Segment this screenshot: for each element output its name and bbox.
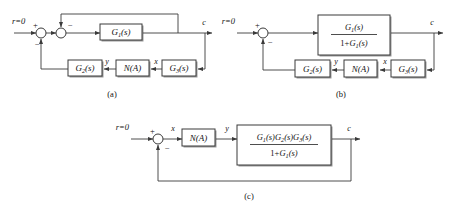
g2-block-label-b: G2(s) [303, 64, 322, 75]
wire-g2-to-sum1 [41, 39, 69, 69]
signal-label-x-a: x [153, 57, 158, 66]
input-label-b: r=0 [222, 16, 236, 26]
diagram-c: N(A) G1(s)G2(s)G3(s) 1+G1(s) + − r=0 x y… [116, 122, 360, 201]
figure-canvas: G1(s) G2(s) N(A) G3(s) + − − r=0 c y x (… [0, 0, 457, 212]
sum-junction-2[interactable] [56, 28, 66, 38]
caption-b: (b) [336, 89, 346, 99]
wire-output-to-g3-b [427, 33, 434, 70]
sign-plus-c: + [150, 126, 155, 136]
wire-output-to-g3 [198, 33, 205, 69]
block-diagram-figure: G1(s) G2(s) N(A) G3(s) + − − r=0 c y x (… [0, 0, 457, 212]
sign-minus-b: − [268, 37, 273, 47]
sign-minus-a2: − [68, 20, 73, 30]
sign-plus-a1: + [33, 20, 38, 30]
diagram-a: G1(s) G2(s) N(A) G3(s) + − − r=0 c y x (… [12, 14, 212, 99]
signal-label-x-b: x [382, 57, 387, 66]
g3-block-label-b: G3(s) [398, 64, 417, 75]
na-block-label-c: N(A) [189, 133, 208, 143]
signal-label-y-c: y [224, 124, 229, 133]
na-block-label: N(A) [123, 63, 142, 73]
caption-a: (a) [107, 89, 117, 99]
output-label-b: c [430, 18, 434, 27]
closed-loop-numerator: G1(s) [345, 22, 363, 33]
signal-label-y-a: y [104, 57, 109, 66]
sign-minus-a1: − [35, 39, 40, 49]
g2-block-label: G2(s) [75, 63, 94, 74]
diagram-b: G1(s) 1+G1(s) G2(s) N(A) G3(s) + − r=0 c… [222, 15, 443, 99]
sign-plus-b: + [255, 20, 260, 30]
g3-block-label: G3(s) [169, 63, 188, 74]
g1-block-label: G1(s) [111, 27, 130, 38]
output-label-a: c [202, 18, 206, 27]
output-label-c: c [347, 124, 351, 133]
signal-label-y-b: y [333, 57, 338, 66]
closed-loop-denominator: 1+G1(s) [340, 38, 367, 49]
closed-loop-block[interactable] [318, 15, 390, 55]
combined-denominator: 1+G1(s) [270, 148, 297, 159]
combined-transfer-block[interactable] [237, 125, 331, 165]
sign-minus-c: − [165, 143, 170, 153]
signal-label-x-c: x [170, 124, 175, 133]
input-label-a: r=0 [12, 16, 26, 26]
na-block-label-b: N(A) [351, 64, 370, 74]
input-label-c: r=0 [116, 122, 130, 132]
caption-c: (c) [244, 191, 254, 201]
